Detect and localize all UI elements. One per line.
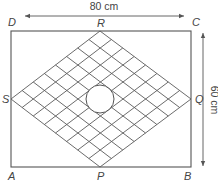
- width-dimension-label: 80 cm: [90, 0, 119, 12]
- vertex-label-q: Q: [195, 93, 204, 105]
- vertex-label-d: D: [8, 16, 16, 28]
- vertex-label-p: P: [97, 170, 105, 182]
- vertex-label-a: A: [7, 170, 15, 182]
- central-circle: [86, 85, 114, 113]
- circle-hole: [86, 85, 114, 113]
- vertex-label-b: B: [184, 170, 191, 182]
- rectangle-rhombus-diagram: DCABRPSQ 80 cm 60 cm: [0, 0, 218, 183]
- height-dimension-label: 60 cm: [209, 86, 218, 115]
- diagram: DCABRPSQ 80 cm 60 cm: [0, 0, 218, 183]
- vertex-label-s: S: [2, 93, 10, 105]
- vertex-label-r: R: [97, 17, 105, 29]
- vertex-label-c: C: [192, 16, 200, 28]
